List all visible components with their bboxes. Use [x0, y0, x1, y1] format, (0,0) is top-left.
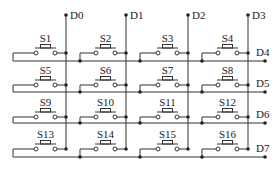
- row-junction-dot: [138, 90, 142, 94]
- switch-label-s5: S5: [40, 64, 52, 76]
- switch-to-row-wire: [80, 85, 94, 92]
- switch-label-s8: S8: [222, 64, 234, 76]
- switch-button-cap: [163, 141, 173, 145]
- switch-terminal: [175, 147, 179, 151]
- switch-terminal: [34, 51, 38, 55]
- switch-label-s11: S11: [159, 96, 176, 108]
- switch-terminal: [156, 115, 160, 119]
- switch-terminal: [175, 83, 179, 87]
- switch-label-s14: S14: [97, 128, 115, 140]
- row-junction-dot: [138, 59, 142, 63]
- switch-terminal: [34, 83, 38, 87]
- keypad-matrix-diagram: D0D1D2D3D4S1S2S3S4D5S5S6S7S8D6S9S10S11S1…: [0, 0, 276, 174]
- row-label-d4: D4: [256, 46, 270, 58]
- switch-button-cap: [101, 109, 111, 113]
- switch-terminal: [156, 147, 160, 151]
- switch-terminal: [113, 147, 117, 151]
- switch-terminal: [235, 51, 239, 55]
- row-terminal-dot: [263, 59, 267, 63]
- switch-button-cap: [41, 109, 51, 113]
- switch-to-row-wire: [140, 53, 156, 61]
- switch-to-row-wire: [140, 117, 156, 123]
- switch-to-row-wire: [80, 117, 94, 123]
- switch-terminal: [216, 83, 220, 87]
- switch-terminal: [53, 147, 57, 151]
- switch-terminal: [94, 83, 98, 87]
- switch-to-row-wire: [140, 85, 156, 92]
- switch-terminal: [53, 83, 57, 87]
- switch-label-s4: S4: [222, 32, 234, 44]
- switch-to-row-wire: [80, 53, 94, 61]
- switch-terminal: [94, 51, 98, 55]
- switch-to-row-wire: [202, 53, 216, 61]
- column-terminal-dot: [246, 13, 250, 17]
- switch-terminal: [156, 51, 160, 55]
- column-label-d1: D1: [130, 9, 143, 21]
- schematic-canvas: D0D1D2D3D4S1S2S3S4D5S5S6S7S8D6S9S10S11S1…: [0, 0, 276, 174]
- switch-label-s2: S2: [100, 32, 112, 44]
- switch-terminal: [94, 115, 98, 119]
- switch-terminal: [216, 51, 220, 55]
- row-junction-dot: [138, 121, 142, 125]
- switch-terminal: [235, 147, 239, 151]
- column-label-d2: D2: [192, 9, 205, 21]
- switch-terminal: [113, 51, 117, 55]
- row-terminal-dot: [263, 90, 267, 94]
- switch-button-cap: [41, 45, 51, 49]
- switch-label-s10: S10: [97, 96, 115, 108]
- switch-button-cap: [223, 45, 233, 49]
- switch-to-row-wire: [140, 149, 156, 157]
- switch-label-s9: S9: [40, 96, 52, 108]
- switch-label-s13: S13: [37, 128, 55, 140]
- switch-button-cap: [223, 109, 233, 113]
- switch-terminal: [53, 115, 57, 119]
- switch-terminal: [175, 115, 179, 119]
- switch-terminal: [235, 83, 239, 87]
- switch-to-row-wire: [202, 149, 216, 157]
- switch-button-cap: [41, 77, 51, 81]
- row-junction-dot: [78, 121, 82, 125]
- switch-terminal: [216, 147, 220, 151]
- switch-button-cap: [41, 141, 51, 145]
- switch-to-row-wire: [202, 85, 216, 92]
- switch-to-row-wire: [13, 53, 34, 61]
- switch-button-cap: [101, 45, 111, 49]
- switch-to-row-wire: [13, 85, 34, 92]
- switch-label-s3: S3: [162, 32, 174, 44]
- switch-button-cap: [101, 77, 111, 81]
- row-label-d7: D7: [256, 142, 270, 154]
- row-junction-dot: [78, 155, 82, 159]
- column-label-d0: D0: [70, 9, 84, 21]
- column-label-d3: D3: [252, 9, 266, 21]
- switch-terminal: [113, 115, 117, 119]
- row-junction-dot: [78, 90, 82, 94]
- switch-button-cap: [163, 109, 173, 113]
- row-label-d5: D5: [256, 77, 270, 89]
- switch-terminal: [34, 147, 38, 151]
- switch-button-cap: [163, 77, 173, 81]
- switch-terminal: [53, 51, 57, 55]
- column-terminal-dot: [124, 13, 128, 17]
- row-junction-dot: [200, 59, 204, 63]
- switch-terminal: [216, 115, 220, 119]
- row-junction-dot: [200, 121, 204, 125]
- switch-label-s7: S7: [162, 64, 174, 76]
- switch-terminal: [34, 115, 38, 119]
- column-terminal-dot: [186, 13, 190, 17]
- switch-to-row-wire: [13, 149, 34, 157]
- row-junction-dot: [78, 59, 82, 63]
- row-terminal-dot: [263, 121, 267, 125]
- switch-label-s15: S15: [159, 128, 177, 140]
- switch-to-row-wire: [13, 117, 34, 123]
- switch-button-cap: [223, 141, 233, 145]
- column-terminal-dot: [64, 13, 68, 17]
- switch-to-row-wire: [80, 149, 94, 157]
- row-junction-dot: [138, 155, 142, 159]
- row-junction-dot: [200, 155, 204, 159]
- switch-terminal: [113, 83, 117, 87]
- switch-label-s16: S16: [219, 128, 237, 140]
- switch-label-s6: S6: [100, 64, 112, 76]
- switch-terminal: [235, 115, 239, 119]
- switch-button-cap: [101, 141, 111, 145]
- switch-label-s12: S12: [219, 96, 236, 108]
